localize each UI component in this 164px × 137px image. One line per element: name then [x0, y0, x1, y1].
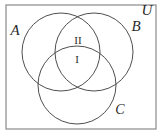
- set-label-b: B: [131, 18, 140, 34]
- set-label-c: C: [115, 102, 125, 117]
- universal-set-label: U: [142, 2, 154, 18]
- region-label-ii: II: [74, 34, 82, 46]
- region-label-i: I: [75, 53, 79, 65]
- venn-diagram-screenshot: A B C U II I: [0, 0, 164, 137]
- set-label-a: A: [9, 22, 20, 38]
- venn-diagram-canvas: A B C U II I: [0, 0, 164, 137]
